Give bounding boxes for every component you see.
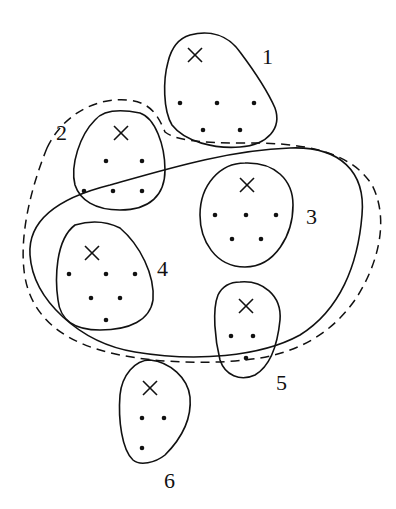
cluster-2: 2 [56, 111, 165, 210]
cluster-4-outline [57, 222, 154, 330]
cross-icon [188, 48, 202, 62]
cluster-5-outline [215, 282, 280, 378]
cluster-5: 5 [215, 282, 287, 395]
cluster-4: 4 [57, 222, 168, 330]
cross-icon [114, 126, 128, 140]
cluster-3: 3 [200, 163, 317, 267]
cluster-2-label: 2 [56, 120, 67, 145]
solid-region-outline [30, 148, 363, 357]
cluster-1: 1 [165, 33, 277, 147]
cross-icon [240, 178, 254, 192]
cluster-4-label: 4 [157, 256, 168, 281]
cluster-diagram: 1 2 3 4 [0, 0, 396, 509]
cluster-3-label: 3 [306, 204, 317, 229]
cross-icon [239, 299, 253, 313]
cluster-6-outline [120, 360, 191, 463]
cluster-6: 6 [120, 360, 191, 493]
cluster-5-label: 5 [276, 370, 287, 395]
cross-icon [143, 381, 157, 395]
cluster-1-label: 1 [262, 44, 273, 69]
cross-icon [85, 246, 99, 260]
cluster-6-label: 6 [164, 468, 175, 493]
cluster-2-outline [74, 111, 165, 210]
cluster-1-outline [165, 33, 277, 147]
